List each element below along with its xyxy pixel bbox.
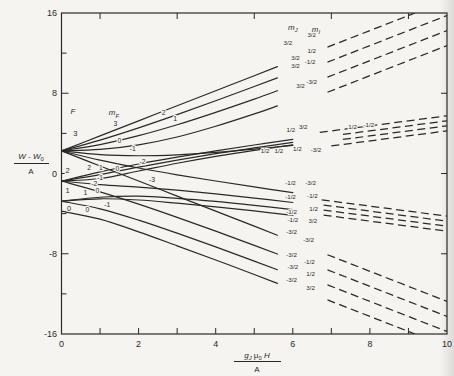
mI-value-label: -1/2	[363, 121, 374, 128]
mI-value-label: -3/2	[303, 236, 314, 243]
mJ-value-label: -1/2	[285, 193, 296, 200]
x-axis-title-numerator: gJ μ0 H	[244, 351, 270, 361]
y-tick-label: 0	[52, 169, 57, 179]
mJ-value-label: 3/2	[283, 39, 292, 46]
x-tick-label: 2	[136, 339, 141, 349]
curves-layer	[62, 13, 448, 334]
y-tick-label: -8	[49, 249, 57, 259]
mJ-value-label: 1/2	[293, 145, 302, 152]
x-tick-label: 8	[367, 339, 372, 349]
x-tick-label: 4	[213, 339, 218, 349]
F-value-label: 1	[66, 186, 70, 195]
asymptote-line-mJ1/2-mI3/2	[320, 116, 447, 133]
asymptote-line-mJ3/2-mI-3/2	[327, 46, 447, 93]
mI-value-label: -1/2	[304, 258, 315, 265]
y-axis-title-denominator: A	[28, 167, 34, 176]
mJ-value-label: 1/2	[261, 147, 270, 154]
y-tick-label: 8	[52, 88, 57, 98]
mF-label: -2	[91, 180, 97, 187]
mJ-value-label: -1/2	[285, 179, 296, 186]
mJ-value-label: -3/2	[286, 276, 297, 283]
y-tick-label: 16	[47, 8, 57, 18]
energy-curve-F3-mF2	[62, 78, 278, 151]
mJ-value-label: -1/2	[286, 208, 297, 215]
mI-value-label: 3/2	[299, 123, 308, 130]
mI-value-label: 1/2	[275, 147, 284, 154]
mI-value-label: -1/2	[305, 58, 316, 65]
y-axis-title-numerator: W - W0	[18, 152, 43, 162]
column-header-mJ: mJ	[288, 23, 298, 33]
mF-label: -3	[149, 176, 155, 183]
asymptote-line-mJ3/2-mI3/2	[327, 13, 415, 47]
asymptote-line-mJ-3/2-mI3/2	[327, 300, 415, 334]
mF-label: -2	[139, 158, 145, 165]
energy-curve-F3-mF-3	[62, 151, 278, 235]
mI-value-label: 1/2	[306, 270, 315, 277]
mI-value-label: 1/2	[307, 47, 316, 54]
asymptote-line-mJ-3/2-mI-3/2	[327, 255, 447, 302]
asymptote-line-mJ-3/2-mI-1/2	[327, 270, 447, 317]
mI-value-label: -3/2	[311, 146, 322, 153]
mI-value-label: -3/2	[306, 78, 317, 85]
mF-label: -1	[104, 201, 110, 208]
mF-label: 3	[114, 120, 118, 127]
x-tick-label: 6	[290, 339, 295, 349]
energy-curve-F1-mF-1	[62, 201, 278, 270]
mF-label: 2	[87, 164, 91, 171]
asymptote-line-mJ3/2-mI-1/2	[327, 31, 447, 78]
x-tick-label: 0	[59, 339, 64, 349]
mJ-value-label: -1/2	[287, 216, 298, 223]
mJ-value-label: 1/2	[348, 123, 357, 130]
asymptote-line-mJ-1/2-mI-3/2	[322, 200, 447, 216]
mJ-value-label: 3/2	[291, 62, 300, 69]
breit-rabi-diagram: 1680-8-160246810W - W0AgJ μ0 HA33/23/223…	[0, 0, 454, 376]
x-tick-label: 10	[442, 339, 452, 349]
figure-page: 1680-8-160246810W - W0AgJ μ0 HA33/23/223…	[0, 0, 454, 376]
F-value-label: 3	[73, 129, 77, 138]
mF-label: 2	[162, 109, 166, 116]
mJ-value-label: -3/2	[286, 251, 297, 258]
mJ-value-label: 1/2	[287, 126, 296, 133]
energy-curve-F1-mF1	[62, 199, 293, 216]
F-value-label: 0	[67, 204, 71, 213]
energy-curve-F3-mF0	[62, 106, 278, 151]
column-header-mF: mF	[109, 108, 120, 118]
F-value-label: 2	[66, 166, 70, 175]
mI-value-label: 1/2	[309, 205, 318, 212]
mF-label: 0	[116, 165, 120, 172]
mF-label: 0	[117, 137, 121, 144]
mF-label: 1	[99, 164, 103, 171]
y-tick-label: -16	[44, 329, 57, 339]
mJ-value-label: -3/2	[286, 228, 297, 235]
mF-label: 0	[95, 187, 99, 194]
mI-value-label: -3/2	[305, 179, 316, 186]
asymptote-line-mJ3/2-mI1/2	[327, 16, 447, 63]
mF-label: -1	[97, 174, 103, 181]
mF-label: 1	[84, 189, 88, 196]
mI-value-label: -1/2	[307, 192, 318, 199]
mI-value-label: 3/2	[309, 217, 318, 224]
mJ-value-label: -3/2	[287, 263, 298, 270]
mF-label: 1	[173, 115, 177, 122]
mI-value-label: 3/2	[306, 284, 315, 291]
asymptote-line-mJ-3/2-mI1/2	[327, 285, 447, 332]
column-header-mI: mI	[312, 25, 321, 35]
mJ-value-label: 3/2	[291, 54, 300, 61]
mF-label: 0	[85, 206, 89, 213]
x-axis-title-denominator: A	[254, 365, 260, 374]
column-header-F: F	[71, 107, 77, 116]
mF-label: -1	[130, 145, 136, 152]
mJ-value-label: 3/2	[296, 82, 305, 89]
